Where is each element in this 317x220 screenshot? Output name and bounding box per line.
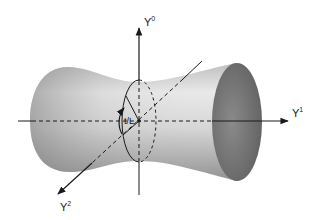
y2-axis-label: Y2 bbox=[60, 200, 71, 213]
angle-label: t/L bbox=[124, 116, 134, 126]
y0-axis-label: Y0 bbox=[144, 15, 155, 28]
origin-point bbox=[137, 119, 141, 123]
y1-axis-label: Y1 bbox=[292, 106, 303, 119]
hyperboloid-diagram: t/L Y0 Y1 Y2 bbox=[0, 0, 317, 220]
end-cap-ellipse bbox=[212, 63, 262, 181]
